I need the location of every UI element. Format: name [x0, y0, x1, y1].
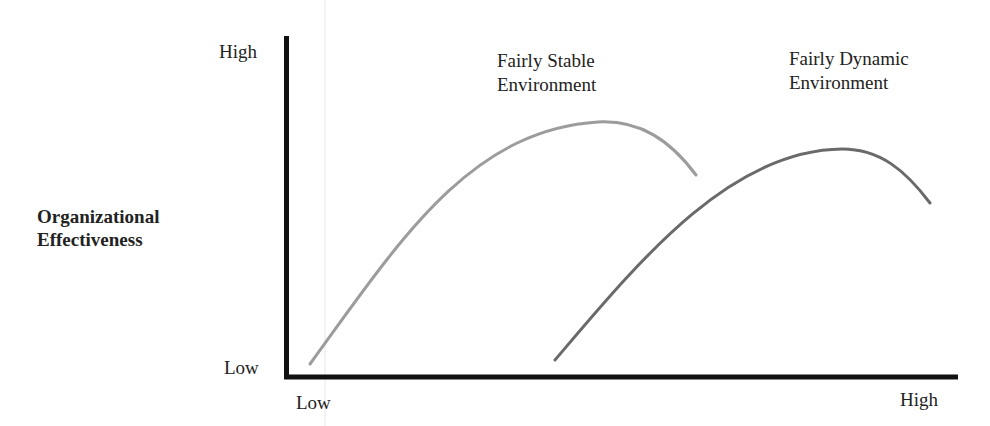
x-tick-high: High [900, 388, 938, 411]
curve-dynamic-environment [555, 149, 930, 360]
stable-label-line1: Fairly Stable [497, 49, 595, 72]
y-axis-label-line2: Effectiveness [37, 228, 143, 251]
stable-label-line2: Environment [497, 73, 596, 96]
dynamic-label-line2: Environment [789, 71, 888, 94]
x-tick-low: Low [296, 391, 331, 414]
dynamic-label-line1: Fairly Dynamic [789, 47, 909, 70]
y-tick-high: High [219, 40, 257, 63]
y-tick-low: Low [224, 356, 259, 379]
curve-stable-environment [310, 122, 696, 364]
y-axis-label-line1: Organizational [37, 205, 159, 228]
